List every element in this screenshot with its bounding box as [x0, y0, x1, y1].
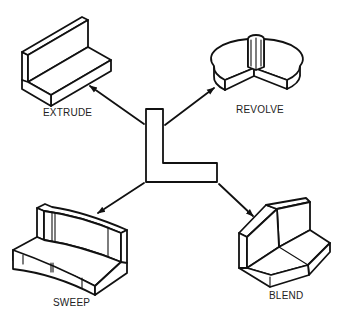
arrow-to-extrude: [90, 86, 144, 124]
label-sweep: SWEEP: [53, 297, 90, 308]
sweep-solid: [13, 204, 127, 295]
arrow-to-blend: [219, 184, 253, 216]
blend-solid: [239, 198, 330, 287]
extrude-solid: [22, 17, 111, 106]
label-extrude: EXTRUDE: [43, 107, 92, 118]
arrow-to-sweep: [98, 183, 144, 213]
label-blend: BLEND: [269, 290, 303, 301]
label-revolve: REVOLVE: [236, 104, 284, 115]
l-profile-shape: [146, 109, 217, 182]
arrow-to-revolve: [165, 88, 214, 125]
revolve-solid: [211, 35, 303, 90]
solid-modeling-operations-diagram: [0, 0, 341, 318]
